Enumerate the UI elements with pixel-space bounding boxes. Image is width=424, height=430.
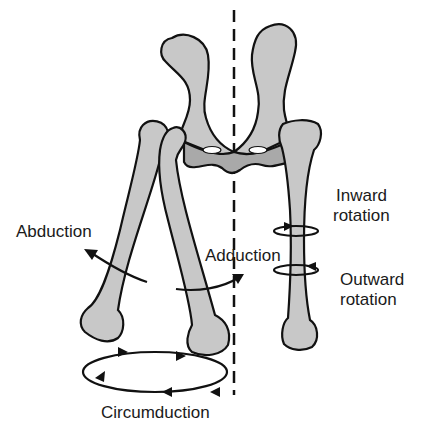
label-circumduction: Circumduction	[101, 403, 210, 422]
femur-abducted	[81, 121, 169, 341]
label-outward-1: Outward	[340, 270, 404, 289]
label-adduction: Adduction	[205, 246, 281, 265]
label-inward-2: rotation	[333, 206, 390, 225]
label-outward-2: rotation	[340, 290, 397, 309]
label-inward-1: Inward	[336, 186, 387, 205]
label-abduction: Abduction	[16, 222, 92, 241]
